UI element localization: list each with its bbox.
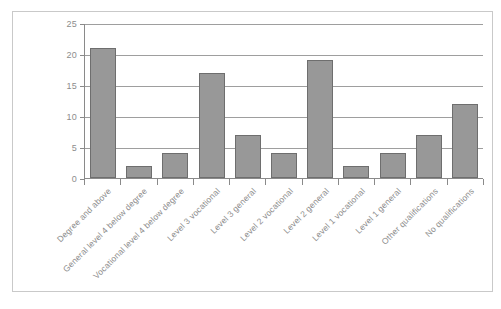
x-tick-mark (193, 179, 194, 185)
bar-slot (85, 24, 121, 178)
bar (235, 135, 261, 178)
bar-slot (447, 24, 483, 178)
bar (452, 104, 478, 178)
y-tick-label-10: 10 (67, 112, 77, 122)
bar-slot (121, 24, 157, 178)
y-tick-label-25: 25 (67, 19, 77, 29)
bar (126, 166, 152, 178)
x-axis-ticks (84, 179, 483, 185)
bar-chart-figure: 0510152025 Degree and aboveGeneral level… (0, 0, 501, 309)
x-tick-mark (410, 179, 411, 185)
x-tick-mark (374, 179, 375, 185)
x-tick-mark (84, 179, 85, 185)
x-tick-mark (338, 179, 339, 185)
bar-slot (338, 24, 374, 178)
bar-slot (157, 24, 193, 178)
bar-slot (411, 24, 447, 178)
x-tick-mark (120, 179, 121, 185)
y-tick-label-15: 15 (67, 81, 77, 91)
bar-slot (302, 24, 338, 178)
x-tick-mark (447, 179, 448, 185)
bar (199, 73, 225, 178)
plot-area: 0510152025 (84, 24, 483, 179)
bar-slot (194, 24, 230, 178)
bar (162, 153, 188, 178)
x-tick-mark (302, 179, 303, 185)
x-tick-mark (229, 179, 230, 185)
x-tick-mark (157, 179, 158, 185)
y-tick-label-0: 0 (72, 174, 77, 184)
bar-slot (375, 24, 411, 178)
bar-slot (266, 24, 302, 178)
y-tick-label-20: 20 (67, 50, 77, 60)
bar (343, 166, 369, 178)
y-tick-label-5: 5 (72, 143, 77, 153)
bar (90, 48, 116, 178)
x-axis-category-labels: Degree and aboveGeneral level 4 below de… (84, 186, 483, 296)
bar-series (85, 24, 483, 178)
x-tick-mark (483, 179, 484, 185)
bar (416, 135, 442, 178)
bar (380, 153, 406, 178)
bar-slot (230, 24, 266, 178)
x-tick-mark (265, 179, 266, 185)
bar (271, 153, 297, 178)
bar (307, 60, 333, 178)
